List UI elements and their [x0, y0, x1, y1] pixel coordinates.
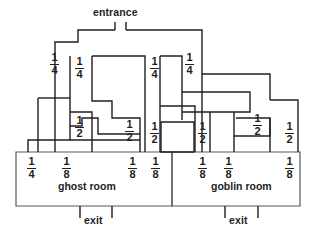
wall-right-4 — [234, 112, 270, 136]
fraction-numerator: 1 — [285, 156, 293, 167]
maze-diagram-page: entrance exit exit ghost room goblin roo… — [0, 0, 316, 236]
fraction-numerator: 1 — [62, 156, 70, 167]
caption-entrance: entrance — [93, 6, 138, 18]
caption-exit-right: exit — [229, 214, 248, 226]
fraction-denominator: 8 — [198, 169, 206, 180]
wall-right-1 — [182, 92, 250, 112]
fraction-numerator: 1 — [75, 56, 83, 67]
wall-entrance-left — [55, 22, 115, 152]
fraction-denominator: 2 — [125, 132, 133, 143]
fraction-numerator: 1 — [198, 121, 206, 132]
fraction-denominator: 8 — [224, 169, 232, 180]
fraction-denominator: 2 — [253, 126, 261, 137]
fraction-numerator: 1 — [150, 121, 158, 132]
fraction-label: 1 4 — [150, 56, 159, 80]
fraction-numerator: 1 — [151, 156, 159, 167]
fraction-denominator: 2 — [75, 128, 83, 139]
fraction-denominator: 8 — [151, 169, 159, 180]
fraction-denominator: 2 — [285, 134, 293, 145]
fraction-numerator: 1 — [185, 52, 193, 63]
fraction-numerator: 1 — [224, 156, 232, 167]
fraction-denominator: 8 — [62, 169, 70, 180]
fraction-numerator: 1 — [75, 115, 83, 126]
fraction-label: 1 2 — [198, 121, 207, 145]
fraction-label: 1 8 — [198, 156, 207, 180]
fraction-label: 1 8 — [285, 156, 294, 180]
fraction-label: 1 8 — [224, 156, 233, 180]
fraction-label: 1 4 — [27, 156, 36, 180]
fraction-label: 1 4 — [50, 52, 59, 76]
fraction-label: 1 8 — [62, 156, 71, 180]
wall-center-square — [161, 122, 194, 152]
fraction-denominator: 4 — [50, 65, 58, 76]
room-label-goblin: goblin room — [211, 180, 272, 192]
fraction-denominator: 4 — [150, 69, 158, 80]
fraction-numerator: 1 — [253, 113, 261, 124]
wall-leftcenter-top — [92, 56, 145, 152]
goblin-room-shape — [172, 152, 300, 206]
fraction-label: 1 4 — [185, 52, 194, 76]
wall-entrance-right — [126, 22, 202, 152]
fraction-numerator: 1 — [128, 156, 136, 167]
fraction-numerator: 1 — [125, 119, 133, 130]
fraction-denominator: 4 — [27, 169, 35, 180]
wall-left-1 — [28, 56, 70, 152]
fraction-numerator: 1 — [50, 52, 58, 63]
fraction-numerator: 1 — [27, 156, 35, 167]
wall-center-top — [160, 56, 182, 120]
fraction-label: 1 2 — [150, 121, 159, 145]
room-label-ghost: ghost room — [58, 180, 116, 192]
caption-exit-left: exit — [84, 214, 103, 226]
fraction-numerator: 1 — [285, 121, 293, 132]
fraction-denominator: 8 — [285, 169, 293, 180]
fraction-denominator: 2 — [150, 134, 158, 145]
fraction-label: 1 2 — [75, 115, 84, 139]
fraction-denominator: 4 — [75, 69, 83, 80]
fraction-label: 1 2 — [285, 121, 294, 145]
fraction-label: 1 8 — [128, 156, 137, 180]
wall-center-mid — [160, 106, 195, 152]
wall-right-2 — [202, 74, 270, 100]
fraction-label: 1 2 — [125, 119, 134, 143]
fraction-label: 1 8 — [151, 156, 160, 180]
fraction-numerator: 1 — [150, 56, 158, 67]
fraction-denominator: 8 — [128, 169, 136, 180]
fraction-denominator: 2 — [198, 134, 206, 145]
fraction-label: 1 2 — [253, 113, 262, 137]
fraction-numerator: 1 — [198, 156, 206, 167]
fraction-denominator: 4 — [185, 65, 193, 76]
maze-svg — [0, 0, 316, 236]
ghost-room-shape — [16, 152, 172, 206]
fraction-label: 1 4 — [75, 56, 84, 80]
